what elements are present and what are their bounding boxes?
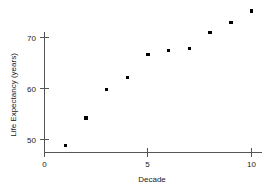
- x-tick-label-10: 10: [247, 160, 256, 169]
- y-tick-label-50: 50: [27, 136, 36, 145]
- y-axis-title: Life Expectancy (years): [9, 53, 18, 137]
- plot-canvas: 50 60 70 0 5 10 Decade Life Expectancy (…: [0, 0, 268, 188]
- data-point: [146, 53, 149, 56]
- data-point: [84, 116, 87, 119]
- y-tick-label-60: 60: [27, 85, 36, 94]
- scatter-plot-figure: 50 60 70 0 5 10 Decade Life Expectancy (…: [0, 0, 268, 188]
- x-tick-label-0: 0: [42, 160, 47, 169]
- data-point: [126, 76, 129, 79]
- y-tick-label-70: 70: [27, 34, 36, 43]
- data-point: [208, 31, 211, 34]
- x-axis-title: Decade: [138, 175, 166, 184]
- data-point: [229, 21, 232, 24]
- data-point: [64, 144, 67, 147]
- data-points-group: [64, 9, 254, 147]
- data-point: [188, 47, 191, 50]
- data-point: [167, 49, 170, 52]
- data-point: [250, 9, 253, 12]
- x-tick-label-5: 5: [145, 160, 150, 169]
- data-point: [105, 88, 108, 91]
